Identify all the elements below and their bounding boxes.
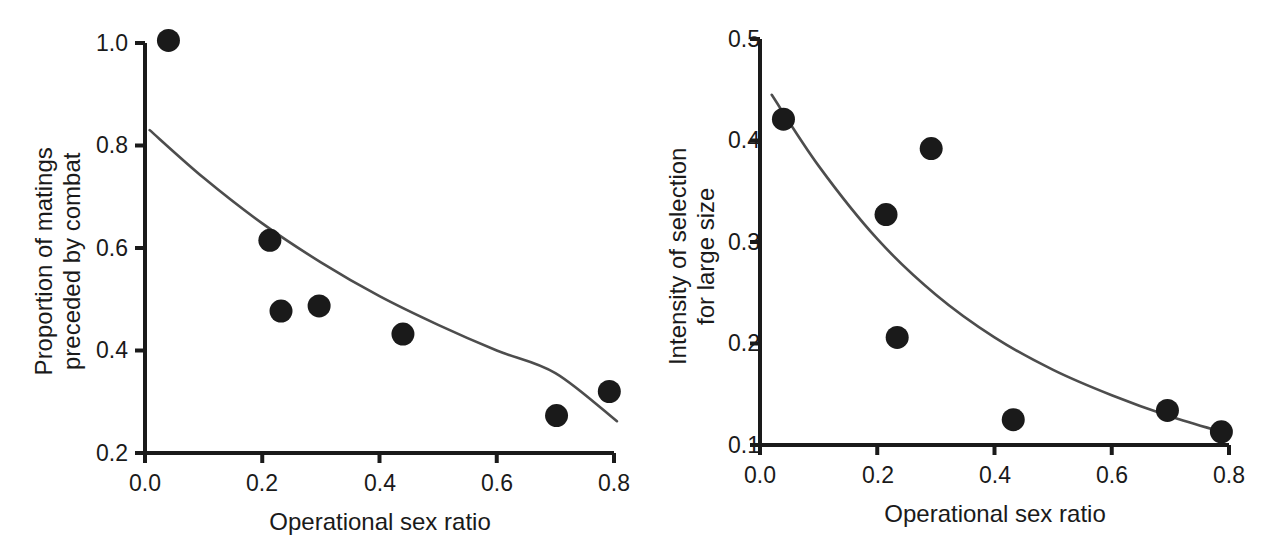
data-point-1 — [875, 203, 898, 226]
xtick-label-right-4: 0.8 — [1213, 464, 1245, 487]
xtick-label-left-0: 0.0 — [129, 472, 161, 495]
data-point-3 — [920, 137, 943, 160]
xtick-label-right-3: 0.6 — [1096, 464, 1128, 487]
y-axis-title-right-line1: Intensity of selection — [664, 148, 691, 365]
xtick-label-right-0: 0.0 — [744, 464, 776, 487]
y-axis-title-right-line2: for large size — [692, 116, 720, 396]
xtick-label-right-1: 0.2 — [862, 464, 894, 487]
data-point-0 — [157, 29, 180, 52]
fit-curve — [772, 95, 1225, 433]
xtick-label-left-3: 0.6 — [481, 472, 513, 495]
xtick-label-right-2: 0.4 — [979, 464, 1011, 487]
data-point-2 — [886, 326, 909, 349]
data-point-5 — [545, 404, 568, 427]
data-point-2 — [270, 300, 293, 323]
ytick-label-left-4: 0.2 — [40, 442, 128, 465]
y-axis-title-left-line2: preceded by combat — [58, 121, 86, 401]
xtick-label-left-4: 0.8 — [598, 472, 630, 495]
panel-right: 0.5 0.4 0.3 0.2 0.1 0.0 0.2 0.4 0.6 0.8 … — [642, 0, 1284, 556]
data-point-5 — [1156, 399, 1179, 422]
xtick-label-left-1: 0.2 — [246, 472, 278, 495]
ytick-label-right-4: 0.1 — [672, 434, 760, 457]
x-axis-title-left: Operational sex ratio — [269, 508, 490, 536]
data-point-3 — [308, 294, 331, 317]
data-point-6 — [598, 380, 621, 403]
two-panel-scatter-figure: 1.0 0.8 0.6 0.4 0.2 0.0 0.2 0.4 0.6 0.8 … — [0, 0, 1284, 556]
y-axis-title-left-line1: Proportion of matings — [30, 147, 57, 375]
data-point-4 — [1002, 408, 1025, 431]
xtick-label-left-2: 0.4 — [364, 472, 396, 495]
plot-area-left — [0, 0, 642, 556]
ytick-label-right-0: 0.5 — [672, 28, 760, 51]
ytick-label-left-0: 1.0 — [40, 32, 128, 55]
data-point-1 — [258, 229, 281, 252]
y-axis-title-left: Proportion of matings preceded by combat — [30, 121, 87, 401]
panel-left: 1.0 0.8 0.6 0.4 0.2 0.0 0.2 0.4 0.6 0.8 … — [0, 0, 642, 556]
fit-curve — [150, 130, 617, 421]
plot-area-right — [642, 0, 1284, 556]
data-point-4 — [391, 323, 414, 346]
y-axis-title-right: Intensity of selection for large size — [664, 116, 721, 396]
x-axis-title-right: Operational sex ratio — [884, 500, 1105, 528]
data-point-6 — [1210, 420, 1233, 443]
data-point-0 — [772, 108, 795, 131]
